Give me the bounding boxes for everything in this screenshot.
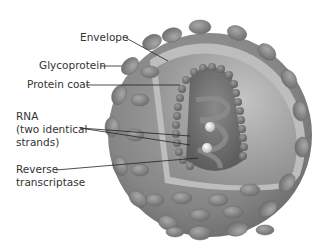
label-rna-line3: strands) <box>16 136 59 148</box>
label-glycoprotein: Glycoprotein <box>39 59 106 71</box>
label-rna-line1: RNA <box>16 110 38 122</box>
label-rna-line2: (two identical <box>16 123 87 135</box>
label-rt-line1: Reverse <box>16 163 58 175</box>
label-rt-line2: transcriptase <box>16 176 85 188</box>
label-envelope: Envelope <box>80 31 128 43</box>
label-protein-coat: Protein coat <box>27 78 90 90</box>
